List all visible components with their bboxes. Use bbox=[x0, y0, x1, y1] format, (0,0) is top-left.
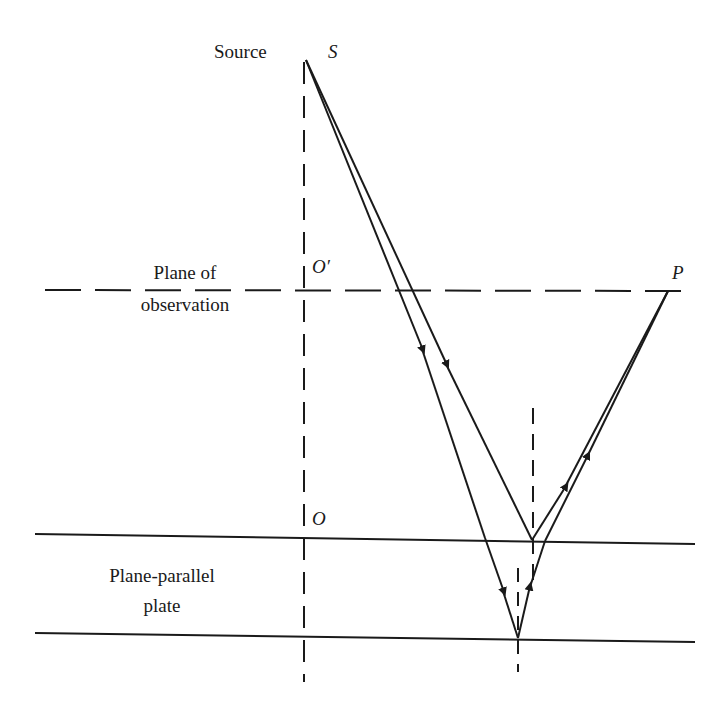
observation-plane-label-line1: Plane of bbox=[130, 262, 240, 284]
plate-top-surface bbox=[35, 534, 695, 544]
point-p-label: P bbox=[672, 262, 684, 284]
source-point-label: S bbox=[328, 41, 338, 63]
ray-reflected-top bbox=[306, 60, 668, 540]
plate-label-line1: Plane-parallel bbox=[92, 565, 232, 587]
ray-refracted-bottom bbox=[306, 60, 668, 638]
plate-bottom-surface bbox=[35, 633, 695, 642]
source-label: Source bbox=[214, 41, 267, 63]
observation-plane-line bbox=[45, 290, 690, 291]
o-prime-label: O′ bbox=[312, 256, 330, 278]
plate-label-line2: plate bbox=[112, 595, 212, 617]
interference-diagram bbox=[0, 0, 723, 711]
observation-plane-label-line2: observation bbox=[120, 294, 250, 316]
origin-o-label: O bbox=[312, 508, 326, 530]
